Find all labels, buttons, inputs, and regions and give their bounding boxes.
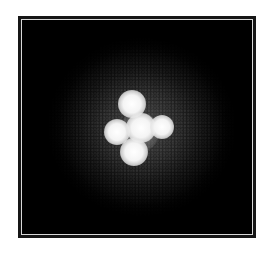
image-right xyxy=(150,115,174,139)
image-bottom xyxy=(120,138,148,166)
image-frame xyxy=(18,16,256,238)
image-panel xyxy=(21,19,253,235)
